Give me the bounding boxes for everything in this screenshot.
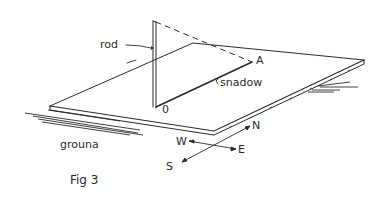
- rod: [153, 21, 156, 108]
- label-south: S: [166, 160, 173, 173]
- shadow-leader: [216, 79, 218, 84]
- rod-leader: [126, 45, 151, 48]
- label-north: N: [252, 119, 260, 132]
- figure-caption: Fig 3: [70, 173, 98, 187]
- label-east: E: [238, 143, 245, 156]
- ground-plate: [50, 43, 364, 135]
- plate-edge-tick: [127, 60, 136, 63]
- label-point-a: A: [256, 54, 264, 67]
- label-point-o: 0: [162, 103, 169, 116]
- label-shadow: snadow: [220, 76, 262, 89]
- label-west: W: [176, 135, 187, 148]
- label-ground: grouna: [60, 138, 99, 151]
- ground-hatching-left: [25, 110, 143, 135]
- sun-ray-dashed: [156, 22, 252, 62]
- sundial-shadow-diagram: rod A snadow 0 grouna N W E S Fig 3: [0, 0, 386, 202]
- label-rod: rod: [100, 38, 118, 51]
